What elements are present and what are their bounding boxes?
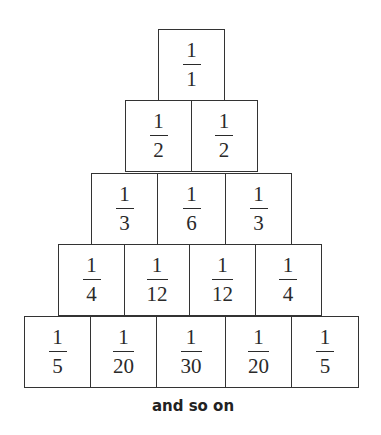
caption: and so on: [0, 397, 381, 415]
denominator: 4: [86, 280, 97, 305]
triangle-row-2: 1 2 1 2: [125, 100, 258, 172]
denominator: 5: [320, 352, 331, 377]
numerator: 1: [184, 327, 199, 351]
denominator: 3: [119, 209, 130, 234]
denominator: 4: [283, 280, 294, 305]
fraction: 1 2: [150, 111, 168, 162]
fraction: 1 20: [248, 327, 269, 378]
fraction: 1 20: [113, 327, 134, 378]
denominator: 2: [219, 136, 230, 161]
fraction: 1 5: [316, 327, 334, 378]
fraction-cell: 1 6: [157, 173, 227, 245]
fraction-cell: 1 4: [255, 244, 322, 316]
numerator: 1: [50, 327, 65, 351]
denominator: 20: [248, 352, 269, 377]
numerator: 1: [318, 327, 333, 351]
fraction: 1 30: [181, 327, 202, 378]
fraction: 1 12: [212, 255, 233, 306]
numerator: 1: [184, 184, 199, 208]
triangle-row-4: 1 4 1 12 1 12 1 4: [58, 244, 322, 316]
numerator: 1: [251, 327, 266, 351]
numerator: 1: [281, 255, 296, 279]
fraction: 1 5: [49, 327, 67, 378]
fraction-cell: 1 12: [124, 244, 191, 316]
fraction-cell: 1 2: [125, 100, 192, 172]
denominator: 12: [212, 280, 233, 305]
fraction-cell: 1 3: [91, 173, 158, 245]
numerator: 1: [117, 184, 132, 208]
denominator: 1: [186, 65, 197, 90]
fraction-cell: 1 4: [58, 244, 125, 316]
fraction-cell: 1 30: [156, 316, 226, 388]
numerator: 1: [215, 255, 230, 279]
triangle-row-3: 1 3 1 6 1 3: [91, 173, 292, 245]
numerator: 1: [84, 255, 99, 279]
numerator: 1: [184, 40, 199, 64]
denominator: 6: [186, 209, 197, 234]
fraction-cell: 1 20: [225, 316, 293, 388]
numerator: 1: [217, 111, 232, 135]
fraction-cell: 1 1: [158, 29, 225, 101]
numerator: 1: [150, 255, 165, 279]
denominator: 30: [181, 352, 202, 377]
fraction: 1 2: [215, 111, 233, 162]
denominator: 3: [253, 209, 264, 234]
fraction-cell: 1 3: [225, 173, 292, 245]
fraction-cell: 1 20: [90, 316, 158, 388]
numerator: 1: [116, 327, 131, 351]
denominator: 20: [113, 352, 134, 377]
denominator: 2: [153, 136, 164, 161]
fraction: 1 4: [279, 255, 297, 306]
fraction: 1 3: [116, 184, 134, 235]
fraction-cell: 1 5: [291, 316, 359, 388]
triangle-row-5: 1 5 1 20 1 30 1 20: [24, 316, 359, 388]
fraction-cell: 1 5: [24, 316, 91, 388]
denominator: 12: [147, 280, 168, 305]
fraction: 1 12: [147, 255, 168, 306]
triangle-row-1: 1 1: [158, 29, 225, 101]
numerator: 1: [251, 184, 266, 208]
fraction: 1 1: [183, 40, 201, 91]
fraction: 1 6: [183, 184, 201, 235]
fraction-cell: 1 2: [191, 100, 258, 172]
fraction-cell: 1 12: [189, 244, 256, 316]
numerator: 1: [151, 111, 166, 135]
fraction: 1 4: [83, 255, 101, 306]
denominator: 5: [52, 352, 63, 377]
fraction: 1 3: [250, 184, 268, 235]
